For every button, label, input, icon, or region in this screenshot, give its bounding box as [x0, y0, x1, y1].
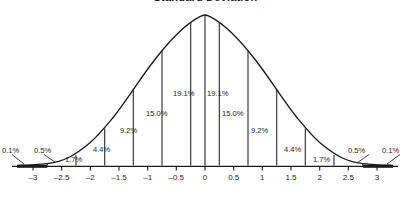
- x-tick-label-0: 0: [191, 173, 219, 182]
- standard-deviation-chart: Standard Deviation: [0, 0, 411, 198]
- x-tick-label-1.5: 1.5: [277, 173, 305, 182]
- pct-label-1.7-right: 1.7%: [313, 155, 330, 164]
- pct-label-0.5-right: 0.5%: [348, 146, 365, 155]
- pct-label-0.5-left: 0.5%: [34, 146, 51, 155]
- x-tick-label--1.5: –1.5: [105, 173, 133, 182]
- pct-label-4.4-right: 4.4%: [284, 145, 301, 154]
- pct-label-19.1-left: 19.1%: [173, 89, 195, 98]
- pct-label-1.7-left: 1.7%: [65, 155, 82, 164]
- x-tick-label-3: 3: [363, 173, 391, 182]
- x-tick-label-2.5: 2.5: [334, 173, 362, 182]
- x-tick-label--3: –3: [19, 173, 47, 182]
- pct-label-19.1-right: 19.1%: [207, 89, 229, 98]
- pct-label-0.1-right: 0.1%: [382, 146, 399, 155]
- x-tick-label--0.5: –0.5: [162, 173, 190, 182]
- pct-label-9.2-right: 9.2%: [251, 126, 268, 135]
- x-tick-label-1: 1: [248, 173, 276, 182]
- pct-label-0.1-left: 0.1%: [2, 146, 19, 155]
- bell-curve-plot: [0, 0, 411, 198]
- pct-label-9.2-left: 9.2%: [120, 126, 137, 135]
- x-tick-label--2.5: –2.5: [48, 173, 76, 182]
- x-tick-label--1: –1: [134, 173, 162, 182]
- pct-label-15.0-left: 15.0%: [146, 109, 168, 118]
- pct-label-15.0-right: 15.0%: [222, 109, 244, 118]
- sd-divider-lines: [47, 15, 362, 166]
- pct-label-4.4-left: 4.4%: [93, 145, 110, 154]
- x-tick-label-0.5: 0.5: [220, 173, 248, 182]
- x-tick-label--2: –2: [76, 173, 104, 182]
- x-tick-label-2: 2: [306, 173, 334, 182]
